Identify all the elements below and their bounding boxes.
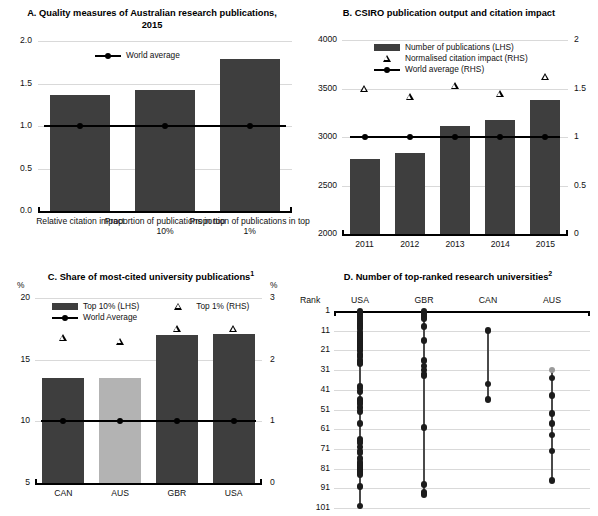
panel-d-stem [487,331,488,400]
panel-d-point [549,367,556,374]
triangle-inner [384,56,388,60]
panel-c-gridline [35,298,262,299]
panel-c-right-unit: % [270,280,277,290]
panel-b-legend-row: Number of publications (LHS) [374,42,528,53]
panel-b-ytick-label-right: 0.5 [574,181,598,190]
panel-a-ytick-label: 2.0 [2,36,32,45]
panel-c-xtick-label: CAN [33,488,93,498]
panel-c-left-unit: % [17,280,24,290]
panel-d-point [357,420,364,427]
panel-a-ytick-label: 1.0 [2,121,32,130]
panel-d: D. Number of top-ranked research univers… [298,268,598,516]
panel-b-ytick-label-right: 1.5 [574,84,598,93]
panel-a-x-axis [38,211,292,213]
panel-c-legend-label: World Average [83,312,137,323]
panel-b-legend-label: World average (RHS) [405,64,484,75]
panel-a-legend-row: World average [95,50,180,61]
panel-b-legend-row: World average (RHS) [374,64,528,75]
panel-d-ytick-label: 21 [298,345,330,354]
triangle-inner [452,84,456,88]
panel-c-top1-marker [229,325,237,332]
panel-c-bar [213,334,255,483]
panel-a-legend: World average [95,50,180,61]
panel-b-ytick-label-right: 2 [574,35,598,44]
panel-b: B. CSIRO publication output and citation… [298,8,598,260]
panel-c-bar [99,378,141,483]
panel-c-legend-row: World Average [52,312,252,323]
panel-c-ytick-label-right: 2 [270,355,294,364]
panel-a-bar [220,59,280,211]
panel-d-point [421,337,428,344]
panel-d-column-label: AUS [517,295,587,305]
panel-c-top1-marker [59,334,67,341]
triangle-inner [176,304,180,308]
triangle-inner [174,327,178,331]
panel-d-ytick-label: 31 [298,365,330,374]
panel-d-point [549,420,556,427]
panel-d-point [549,392,556,399]
panel-a-xtick-label: Proportion of publications in top 1% [188,216,312,236]
panel-d-column-label: CAN [453,295,523,305]
panel-d-point [549,448,556,455]
panel-c-legend-label: Top 10% (LHS) [83,301,139,312]
panel-c-axis-end-right [260,479,262,484]
panel-d-gridline [334,508,590,509]
panel-b-bar [530,100,560,234]
panel-b-citation-impact-marker [360,85,368,92]
panel-a-axis-end-right [290,207,292,212]
panel-d-point [485,396,492,403]
triangle-icon [374,55,400,63]
panel-d-gridline [334,488,590,489]
panel-c-ytick-label: 10 [2,416,30,425]
panel-b-citation-impact-marker [406,93,414,100]
panel-a-gridline [38,41,292,42]
line-dot-icon [374,66,400,74]
triangle-inner [117,339,121,343]
panel-b-legend: Number of publications (LHS)Normalised c… [374,42,528,75]
panel-b-bar [440,126,470,234]
panel-b-ytick-label: 4000 [302,35,337,44]
panel-c-xtick-label: USA [204,488,264,498]
panel-d-point [421,424,428,431]
panel-a-axis-end-left [38,207,40,212]
panel-d-ytick-label: 41 [298,385,330,394]
panel-d-point [549,375,556,382]
panel-b-xtick-label: 2014 [476,239,524,249]
panel-d-gridline [334,350,590,351]
panel-d-column-label: GBR [389,295,459,305]
panel-c-ytick-label-right: 1 [270,416,294,425]
panel-b-ytick-label: 3500 [302,84,337,93]
panel-d-ytick-label: 51 [298,405,330,414]
triangle-glyph [174,303,182,310]
panel-c-world-average-marker [231,418,237,424]
triangle-inner [362,87,366,91]
panel-d-point [357,471,364,478]
triangle-inner [407,95,411,99]
triangle-inner [60,336,64,340]
panel-c-top1-marker [116,338,124,345]
panel-c-bar [156,335,198,483]
panel-a-ytick-label: 0.5 [2,164,32,173]
panel-a-world-average-marker [162,123,168,129]
panel-b-citation-impact-marker [541,73,549,80]
panel-b-xtick-label: 2012 [386,239,434,249]
panel-b-bar [350,159,380,234]
panel-b-legend-label: Normalised citation impact (RHS) [405,53,528,64]
panel-d-ytick-label: 1 [298,306,330,315]
panel-d-column-label: USA [325,295,395,305]
panel-b-gridline [342,40,568,41]
panel-a-bar [135,90,195,211]
panel-c-ytick-label: 20 [2,293,30,302]
panel-b-world-average-marker [452,134,458,140]
panel-d-point [421,481,428,488]
panel-d-ytick-label: 91 [298,483,330,492]
panel-d-top-axis [334,311,590,313]
panel-b-legend-label: Number of publications (LHS) [405,42,514,53]
panel-d-point [357,483,364,490]
triangle-glyph [383,55,391,62]
panel-d-point [485,327,492,334]
panel-d-axis-end-left [334,311,336,316]
panel-d-ytick-label: 71 [298,444,330,453]
bar-swatch-icon [374,44,400,51]
panel-a-world-average-marker [247,123,253,129]
